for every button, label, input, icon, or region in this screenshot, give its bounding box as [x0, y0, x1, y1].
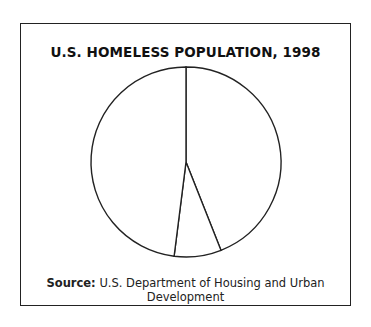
- source-note: Source: U.S. Department of Housing and U…: [21, 276, 350, 304]
- pie-chart: [21, 24, 352, 307]
- source-text: U.S. Department of Housing and Urban Dev…: [99, 276, 324, 304]
- chart-frame: U.S. HOMELESS POPULATION, 1998 Source: U…: [20, 23, 351, 306]
- pie-slices: [91, 67, 281, 257]
- pie-slice: [91, 67, 186, 256]
- source-label: Source:: [46, 276, 95, 290]
